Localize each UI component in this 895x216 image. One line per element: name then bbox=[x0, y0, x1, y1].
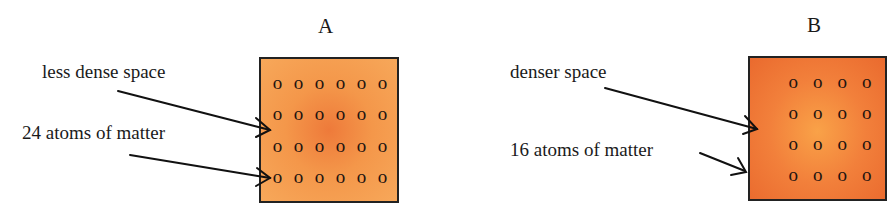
arrow-icon bbox=[605, 88, 757, 134]
arrow-icon bbox=[700, 153, 746, 175]
arrows-layer bbox=[0, 0, 895, 216]
arrow-icon bbox=[118, 91, 270, 137]
arrow-icon bbox=[130, 155, 270, 186]
